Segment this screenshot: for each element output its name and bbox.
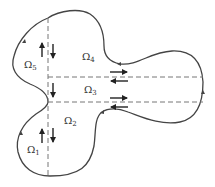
outer-boundary (13, 11, 203, 176)
label-omega3: Ω3 (84, 84, 97, 97)
label-omega5: Ω5 (24, 59, 37, 72)
boundary-arrow-icon (201, 90, 205, 94)
label-omega2: Ω2 (64, 115, 77, 128)
label-omega4: Ω4 (82, 51, 95, 64)
boundary-arrow-icon (22, 39, 26, 43)
label-omega1: Ω1 (27, 144, 40, 157)
domain-decomposition-diagram: Ω5 Ω4 Ω3 Ω2 Ω1 (0, 0, 215, 187)
boundary-arrow-icon (117, 62, 121, 66)
